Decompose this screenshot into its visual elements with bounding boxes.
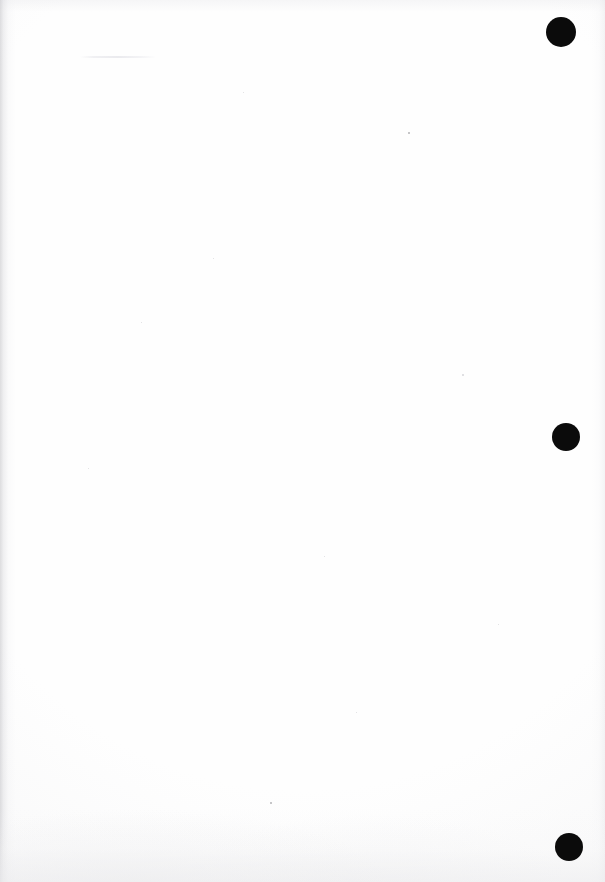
scanned-page [0, 0, 605, 882]
registration-mark-top [546, 17, 576, 47]
registration-mark-middle [552, 423, 580, 451]
scanner-speck [270, 802, 272, 804]
scanner-speck [462, 374, 464, 376]
paper-background [0, 0, 605, 882]
registration-mark-bottom [555, 833, 583, 861]
